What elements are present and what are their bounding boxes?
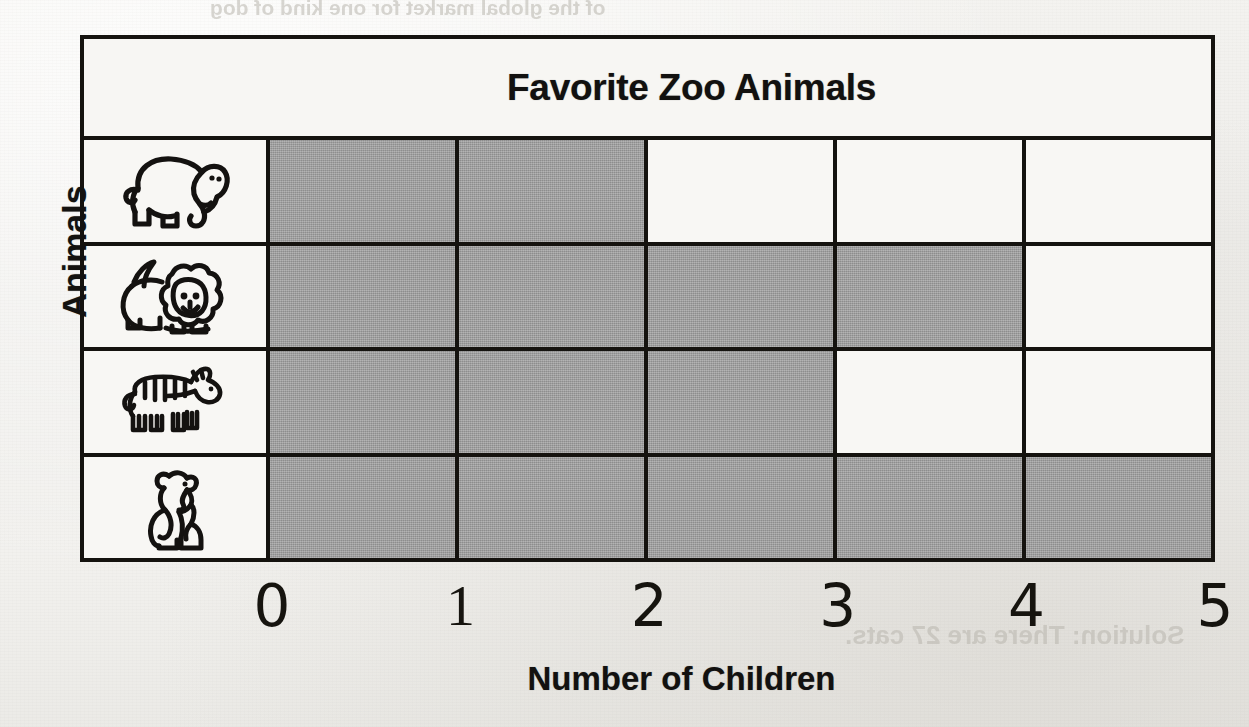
x-tick-1: 1 <box>426 575 496 637</box>
bar-chart: Favorite Zoo Animals <box>80 35 1215 562</box>
cell-elephant-5[interactable] <box>1026 140 1211 242</box>
row-icon-cell-zebra <box>84 351 270 453</box>
x-tick-2: 2 <box>614 575 684 637</box>
bear-icon <box>125 460 225 554</box>
row-cells-lion <box>270 246 1211 348</box>
lion-icon <box>114 252 236 340</box>
row-cells-elephant <box>270 140 1211 242</box>
cell-bear-3[interactable] <box>648 457 837 559</box>
x-tick-0: 0 <box>237 575 307 637</box>
cell-zebra-1[interactable] <box>270 351 459 453</box>
cell-lion-3[interactable] <box>648 246 837 348</box>
chart-title: Favorite Zoo Animals <box>507 67 876 109</box>
y-axis-label: Animals <box>55 172 94 332</box>
chart-row-elephant <box>84 140 1211 246</box>
cell-lion-2[interactable] <box>459 246 648 348</box>
row-icon-cell-elephant <box>84 140 270 242</box>
x-axis-tick-labels: 012345 <box>0 575 1249 645</box>
cell-lion-4[interactable] <box>837 246 1026 348</box>
elephant-icon <box>116 148 234 234</box>
cell-elephant-3[interactable] <box>648 140 837 242</box>
cell-lion-1[interactable] <box>270 246 459 348</box>
cell-zebra-4[interactable] <box>837 351 1026 453</box>
cell-elephant-1[interactable] <box>270 140 459 242</box>
row-icon-cell-lion <box>84 246 270 348</box>
cell-lion-5[interactable] <box>1026 246 1211 348</box>
zebra-icon <box>115 358 235 446</box>
x-axis-label: Number of Children <box>114 660 1249 698</box>
chart-title-band: Favorite Zoo Animals <box>84 39 1211 140</box>
x-tick-3: 3 <box>803 575 873 637</box>
chart-row-bear <box>84 457 1211 559</box>
cell-elephant-4[interactable] <box>837 140 1026 242</box>
x-tick-5: 5 <box>1180 575 1249 637</box>
row-cells-bear <box>270 457 1211 559</box>
x-tick-4: 4 <box>991 575 1061 637</box>
cell-bear-5[interactable] <box>1026 457 1211 559</box>
chart-row-zebra <box>84 351 1211 457</box>
chart-row-lion <box>84 246 1211 352</box>
cell-elephant-2[interactable] <box>459 140 648 242</box>
cell-zebra-5[interactable] <box>1026 351 1211 453</box>
chart-grid <box>84 140 1211 558</box>
cell-bear-4[interactable] <box>837 457 1026 559</box>
cell-zebra-3[interactable] <box>648 351 837 453</box>
row-cells-zebra <box>270 351 1211 453</box>
row-icon-cell-bear <box>84 457 270 559</box>
cell-bear-2[interactable] <box>459 457 648 559</box>
cell-bear-1[interactable] <box>270 457 459 559</box>
cell-zebra-2[interactable] <box>459 351 648 453</box>
